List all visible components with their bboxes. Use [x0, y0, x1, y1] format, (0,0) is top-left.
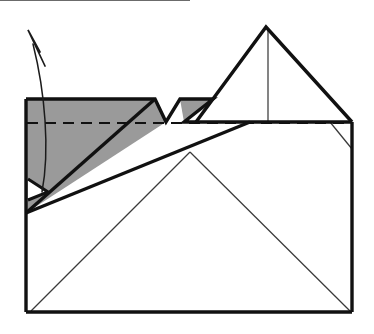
origami-diagram — [0, 0, 374, 334]
origami-figure-svg — [0, 0, 374, 334]
